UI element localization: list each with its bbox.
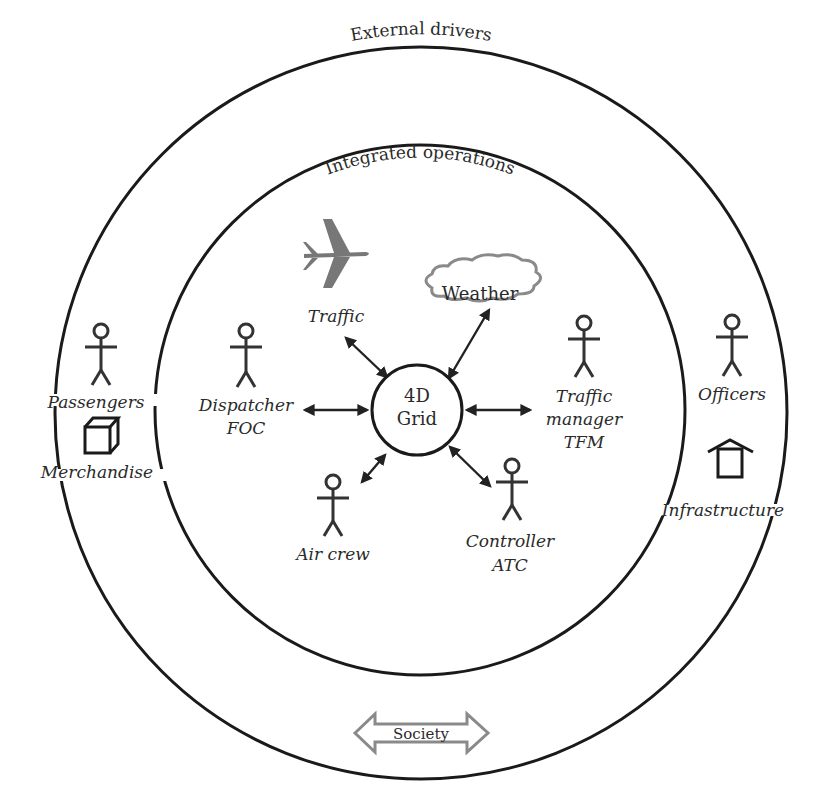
node-officers: Officers: [698, 315, 766, 404]
box-icon: [85, 418, 118, 453]
airplane-icon: [303, 219, 369, 288]
node-infrastructure: Infrastructure: [661, 440, 784, 520]
dispatcher-label-line1: Dispatcher: [198, 395, 294, 415]
person-icon: [568, 316, 600, 377]
node-weather: Weather: [426, 255, 541, 304]
diagram-canvas: External drivers Integrated operations 4…: [0, 0, 822, 806]
hub-4d-grid: 4D Grid: [372, 365, 462, 455]
node-society: Society: [355, 714, 488, 752]
society-label: Society: [393, 725, 449, 743]
person-icon: [716, 315, 748, 376]
arrow-air-crew: [362, 455, 385, 482]
inner-ring-label: Integrated operations: [322, 142, 518, 179]
arrow-controller: [450, 447, 490, 486]
person-icon: [85, 324, 117, 385]
arrow-weather: [449, 310, 489, 378]
passengers-label: Passengers: [46, 392, 144, 412]
controller-label-line1: Controller: [466, 531, 555, 551]
officers-label: Officers: [698, 384, 766, 404]
merchandise-label: Merchandise: [40, 462, 153, 482]
node-passengers: Passengers: [46, 324, 144, 412]
person-icon: [496, 459, 528, 520]
outer-ring-label: External drivers: [349, 18, 494, 45]
hub-label-line1: 4D: [404, 385, 430, 406]
person-icon: [230, 324, 262, 387]
dispatcher-label-line2: FOC: [226, 418, 266, 438]
person-icon: [317, 475, 349, 536]
arrow-traffic: [346, 338, 387, 377]
traffic-label: Traffic: [308, 306, 365, 326]
node-dispatcher: Dispatcher FOC: [198, 324, 294, 438]
controller-label-line2: ATC: [490, 555, 528, 575]
traffic-manager-label-line3: TFM: [564, 432, 605, 452]
traffic-manager-label-line2: manager: [546, 409, 623, 429]
air-crew-label: Air crew: [294, 544, 370, 564]
traffic-manager-label-line1: Traffic: [556, 386, 613, 406]
node-traffic: Traffic: [303, 219, 369, 326]
node-traffic-manager: Traffic manager TFM: [546, 316, 623, 452]
hub-label-line2: Grid: [397, 408, 437, 429]
house-icon: [708, 440, 753, 477]
infrastructure-label: Infrastructure: [661, 500, 784, 520]
weather-label: Weather: [442, 283, 519, 304]
node-air-crew: Air crew: [294, 475, 370, 564]
